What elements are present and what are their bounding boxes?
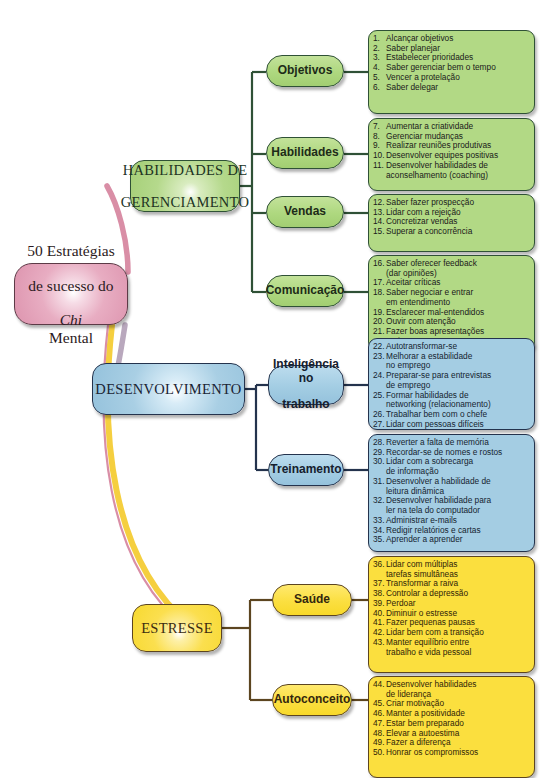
list-item-number: 44. bbox=[373, 680, 386, 690]
list-item-number: 18. bbox=[373, 288, 386, 298]
list-item-text: Lidar com a sobrecarga de informação bbox=[386, 456, 473, 476]
list-item: 15.Superar a concorrência bbox=[373, 227, 529, 237]
list-item-text: Alcançar objetivos bbox=[386, 33, 453, 43]
list-item-text: Redigir relatórios e cartas bbox=[386, 525, 481, 535]
list-item-text: Desenvolver habilidade para ler na tela … bbox=[386, 495, 491, 515]
list-item-text: Diminuir o estresse bbox=[386, 608, 457, 618]
branch-node-desenvolvimento[interactable]: DESENVOLVIMENTO bbox=[92, 363, 245, 415]
subtopic-label-inteligencia-line1: Inteligência no bbox=[269, 358, 343, 385]
branch-label-estresse: ESTRESSE bbox=[141, 620, 213, 636]
subtopic-node-objetivos[interactable]: Objetivos bbox=[266, 55, 344, 87]
list-item-number: 21. bbox=[373, 327, 386, 337]
list-item-text: Superar a concorrência bbox=[386, 226, 472, 236]
list-item-text: Fazer a diferença bbox=[386, 737, 451, 747]
list-item-number: 6. bbox=[373, 83, 386, 93]
list-item-text: Formar habilidades de networking (relaci… bbox=[386, 390, 491, 410]
list-item-text: Saber fazer prospecção bbox=[386, 197, 474, 207]
list-box-comunicacao: 16.Saber oferecer feedback (dar opiniões… bbox=[368, 255, 535, 351]
subtopic-label-objetivos: Objetivos bbox=[278, 64, 333, 77]
list-item-text: Controlar a depressão bbox=[386, 588, 468, 598]
list-item-text: Administrar e-mails bbox=[386, 515, 457, 525]
list-item-number: 16. bbox=[373, 259, 386, 269]
list-item-number: 24. bbox=[373, 371, 386, 381]
list-objetivos: 1.Alcançar objetivos2.Saber planejar3.Es… bbox=[373, 34, 529, 92]
subtopic-node-treinamento[interactable]: Treinamento bbox=[268, 454, 344, 486]
list-item-text: Desenvolver equipes positivas bbox=[386, 150, 498, 160]
list-item-text: Desenvolver habilidades de aconselhament… bbox=[386, 160, 488, 180]
subtopic-node-vendas[interactable]: Vendas bbox=[266, 196, 344, 228]
list-item: 35.Aprender a aprender bbox=[373, 535, 529, 545]
list-item: 50.Honrar os compromissos bbox=[373, 748, 529, 758]
list-item-text: Lidar com múltiplas tarefas simultâneas bbox=[386, 559, 458, 579]
list-box-treinamento: 28.Reverter a falta de memória29.Recorda… bbox=[368, 434, 535, 552]
list-inteligencia-no-trabalho: 22.Autotransformar-se23.Melhorar a estab… bbox=[373, 342, 529, 430]
list-item-text: Criar motivação bbox=[386, 698, 444, 708]
list-item-text: Reverter a falta de memória bbox=[386, 437, 489, 447]
subtopic-node-habilidades[interactable]: Habilidades bbox=[266, 137, 344, 169]
list-item-text: Fazer pequenas pausas bbox=[386, 617, 475, 627]
list-item-text: Honrar os compromissos bbox=[386, 747, 478, 757]
branch-node-estresse[interactable]: ESTRESSE bbox=[132, 604, 222, 652]
list-item: 24.Preparar-se para entrevistas de empre… bbox=[373, 371, 529, 390]
subtopic-node-comunicacao[interactable]: Comunicação bbox=[266, 275, 344, 307]
list-item-number: 23. bbox=[373, 352, 386, 362]
list-item-text: Ouvir com atenção bbox=[386, 316, 456, 326]
subtopic-label-saude: Saúde bbox=[294, 593, 330, 606]
list-item: 23.Melhorar a estabilidade no emprego bbox=[373, 352, 529, 371]
list-item-text: Saber planejar bbox=[386, 43, 440, 53]
list-item: 36.Lidar com múltiplas tarefas simultâne… bbox=[373, 560, 529, 579]
list-item-text: Preparar-se para entrevistas de emprego bbox=[386, 370, 491, 390]
central-topic-line1: 50 Estratégias bbox=[27, 242, 114, 259]
list-item-text: Estar bem preparado bbox=[386, 718, 464, 728]
list-item-text: Desenvolver a habilidade de leitura dinâ… bbox=[386, 476, 491, 496]
list-item-text: Perdoar bbox=[386, 598, 416, 608]
list-item: 44.Desenvolver habilidades de liderança bbox=[373, 680, 529, 699]
list-vendas: 12.Saber fazer prospecção13.Lidar com a … bbox=[373, 198, 529, 237]
list-autoconceito: 44.Desenvolver habilidades de liderança4… bbox=[373, 680, 529, 758]
subtopic-label-habilidades: Habilidades bbox=[271, 146, 338, 159]
list-item: 27.Lidar com pessoas difíceis bbox=[373, 420, 529, 430]
list-item: 16.Saber oferecer feedback (dar opiniões… bbox=[373, 259, 529, 278]
list-item-text: Manter equilíbrio entre trabalho e vida … bbox=[386, 637, 471, 657]
list-item: 30.Lidar com a sobrecarga de informação bbox=[373, 457, 529, 476]
list-item-number: 25. bbox=[373, 391, 386, 401]
list-item: 43.Manter equilíbrio entre trabalho e vi… bbox=[373, 638, 529, 657]
subtopic-node-inteligencia-no-trabalho[interactable]: Inteligência no trabalho bbox=[268, 365, 344, 405]
central-topic-node[interactable]: 50 Estratégias de sucesso do Chi Mental bbox=[14, 263, 128, 325]
central-topic-line3-rest: Mental bbox=[27, 329, 114, 346]
list-item-text: Autotransformar-se bbox=[386, 341, 457, 351]
subtopic-node-saude[interactable]: Saúde bbox=[272, 584, 352, 616]
list-comunicacao: 16.Saber oferecer feedback (dar opiniões… bbox=[373, 259, 529, 347]
central-topic-line2: de sucesso do bbox=[27, 277, 114, 294]
list-box-autoconceito: 44.Desenvolver habilidades de liderança4… bbox=[368, 676, 535, 778]
branch-label-desenvolvimento: DESENVOLVIMENTO bbox=[95, 381, 241, 397]
list-item-text: Saber negociar e entrar em entendimento bbox=[386, 287, 473, 307]
list-item-text: Saber delegar bbox=[386, 82, 438, 92]
list-item: 25.Formar habilidades de networking (rel… bbox=[373, 391, 529, 410]
list-item-text: Gerenciar mudanças bbox=[386, 131, 463, 141]
list-habilidades: 7.Aumentar a criatividade8.Gerenciar mud… bbox=[373, 122, 529, 180]
list-item-number: 15. bbox=[373, 227, 386, 237]
list-item-number: 36. bbox=[373, 560, 386, 570]
list-item: 18.Saber negociar e entrar em entendimen… bbox=[373, 288, 529, 307]
list-item-number: 35. bbox=[373, 535, 386, 545]
list-item-text: Saber gerenciar bem o tempo bbox=[386, 62, 496, 72]
list-item-number: 43. bbox=[373, 638, 386, 648]
list-box-vendas: 12.Saber fazer prospecção13.Lidar com a … bbox=[368, 194, 535, 252]
list-item-number: 30. bbox=[373, 457, 386, 467]
list-item-text: Concretizar vendas bbox=[386, 216, 457, 226]
subtopic-label-treinamento: Treinamento bbox=[270, 463, 341, 476]
list-item-text: Aceitar críticas bbox=[386, 277, 440, 287]
list-item-text: Recordar-se de nomes e rostos bbox=[386, 447, 502, 457]
list-box-saude: 36.Lidar com múltiplas tarefas simultâne… bbox=[368, 556, 535, 673]
list-item-text: Melhorar a estabilidade no emprego bbox=[386, 351, 472, 371]
list-box-habilidades: 7.Aumentar a criatividade8.Gerenciar mud… bbox=[368, 118, 535, 191]
list-item-text: Desenvolver habilidades de liderança bbox=[386, 679, 476, 699]
list-saude: 36.Lidar com múltiplas tarefas simultâne… bbox=[373, 560, 529, 657]
branch-label-gerenciamento-line1: HABILIDADES DE bbox=[121, 162, 250, 178]
list-box-objetivos: 1.Alcançar objetivos2.Saber planejar3.Es… bbox=[368, 30, 535, 114]
subtopic-node-autoconceito[interactable]: Autoconceito bbox=[272, 684, 352, 716]
branch-node-gerenciamento[interactable]: HABILIDADES DE GERENCIAMENTO bbox=[130, 160, 240, 212]
branch-label-gerenciamento-line2: GERENCIAMENTO bbox=[121, 194, 250, 210]
list-item-text: Trabalhar bem com o chefe bbox=[386, 409, 487, 419]
